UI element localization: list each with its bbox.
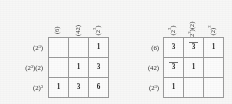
right-column-header-1: (23)(2) (183, 0, 203, 34)
table-row: 1 3 6 (49, 78, 109, 98)
left-cell-2-1: 3 (69, 78, 89, 98)
left-row-label-2: (2)3 (0, 77, 46, 97)
left-column-header-2-label: (23) (95, 26, 102, 36)
right-cell-0-1: 3 (184, 38, 204, 58)
right-cell-0-2: 1 (204, 38, 224, 58)
right-cell-1-1: 1 (184, 58, 204, 78)
right-column-header-0: (23) (163, 0, 183, 34)
table-row: 3 3 1 (164, 38, 224, 58)
right-cell-0-0: 3 (164, 38, 184, 58)
left-column-header-2: (23) (88, 0, 108, 34)
right-column-header-2-label: (2)3 (210, 26, 217, 36)
right-cell-1-2 (204, 58, 224, 78)
left-column-header-1: (42) (68, 0, 88, 34)
right-cell-1-0: 3 (164, 58, 184, 78)
left-cell-2-0: 1 (49, 78, 69, 98)
right-row-label-2: (23) (116, 77, 162, 97)
left-matrix-column-headers: (6) (42) (23) (48, 0, 108, 34)
table-row: 1 3 (49, 58, 109, 78)
left-cell-1-0 (49, 58, 69, 78)
right-matrix-row-labels: (6) (42) (23) (116, 37, 162, 97)
left-row-label-0: (23) (0, 37, 46, 57)
right-matrix-column-headers: (23) (23)(2) (2)3 (163, 0, 223, 34)
left-cell-0-0 (49, 38, 69, 58)
right-row-label-1: (42) (116, 57, 162, 77)
right-cell-2-0: 1 (164, 78, 184, 98)
left-row-label-1: (23)(2) (0, 57, 46, 77)
left-matrix: (6) (42) (23) (23) (23)(2) (2)3 1 (0, 0, 116, 104)
left-cell-1-1: 1 (69, 58, 89, 78)
left-column-header-1-label: (42) (75, 25, 82, 36)
left-column-header-0-label: (6) (55, 27, 62, 35)
right-column-header-0-label: (23) (170, 26, 177, 36)
table-row: 3 1 (164, 58, 224, 78)
right-row-label-0: (6) (116, 37, 162, 57)
left-cell-0-1 (69, 38, 89, 58)
left-cell-2-2: 6 (89, 78, 109, 98)
matrix-pair-sheet: (6) (42) (23) (23) (23)(2) (2)3 1 (0, 0, 232, 104)
left-cell-1-2: 3 (89, 58, 109, 78)
left-column-header-0: (6) (48, 0, 68, 34)
right-matrix-grid: 3 3 1 3 1 1 (163, 37, 224, 98)
right-column-header-2: (2)3 (203, 0, 223, 34)
left-matrix-grid: 1 1 3 1 3 6 (48, 37, 109, 98)
table-row: 1 (49, 38, 109, 58)
left-matrix-row-labels: (23) (23)(2) (2)3 (0, 37, 46, 97)
right-matrix: (23) (23)(2) (2)3 (6) (42) (23) 3 3 1 (116, 0, 232, 104)
right-cell-2-1 (184, 78, 204, 98)
right-cell-2-2 (204, 78, 224, 98)
left-cell-0-2: 1 (89, 38, 109, 58)
table-row: 1 (164, 78, 224, 98)
